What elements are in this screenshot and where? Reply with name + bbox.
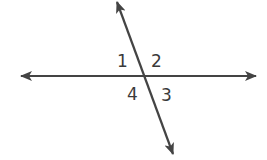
intersecting-lines-diagram: 1 2 4 3 [0,0,267,160]
angle-label-1: 1 [117,51,128,71]
angle-label-2: 2 [151,51,162,71]
angle-label-4: 4 [127,84,138,104]
angle-label-3: 3 [161,85,172,105]
transversal-line [117,2,173,154]
